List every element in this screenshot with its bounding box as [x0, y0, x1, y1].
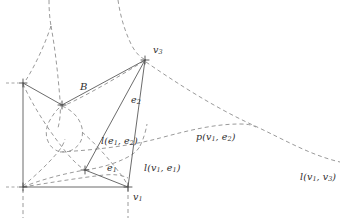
dashed-curve-top-mid-stem	[118, 0, 144, 59]
dashed-loop-mid-left	[46, 106, 82, 152]
vertex-marker-junction	[58, 101, 66, 109]
dashed-curve-upper-left-b	[51, 26, 60, 128]
vertex-marker-v1	[124, 183, 132, 191]
vertex-marker-top-left	[19, 79, 27, 87]
solid-edge-v1-to-v3	[128, 60, 145, 187]
solid-edge-topleft-to-junction	[23, 83, 62, 105]
dashed-curve-l-v1-v3	[146, 62, 340, 162]
label-e2: e2	[131, 95, 141, 106]
label-e1: e1	[107, 163, 117, 174]
label-l-v1-e1: l(v1, e1)	[144, 163, 180, 174]
vertex-marker-e1-point	[81, 166, 89, 174]
label-v1: v1	[133, 192, 143, 203]
label-l-e1-e2: l(e1, e2)	[101, 136, 138, 147]
label-p-v1-e2: p(v1, e2)	[196, 132, 235, 143]
dashed-curve-bottomleft-to-e1point	[23, 170, 85, 187]
label-v3: v3	[153, 45, 163, 56]
dashed-curve-top-left-stem	[49, 0, 51, 26]
dashed-curve-lv1e1-up	[140, 124, 147, 146]
label-l-v1-v3: l(v1, v3)	[300, 172, 336, 183]
dashed-curve-bottomleft-to-mid	[23, 139, 65, 186]
geometric-diagram: v3 B e2 l(e1, e2) e1 l(v1, e1) p(v1, e2)…	[0, 0, 354, 218]
dashed-curve-upper-left-a	[26, 26, 51, 80]
label-B: B	[80, 82, 87, 92]
diagram-canvas	[0, 0, 354, 218]
